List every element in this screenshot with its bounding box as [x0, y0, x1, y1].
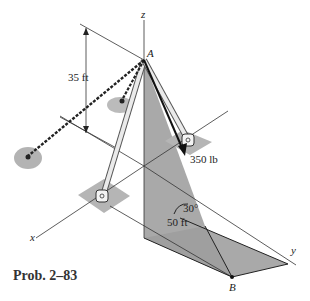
force-label: 350 lb: [190, 153, 218, 165]
height-ext-top: [80, 24, 144, 60]
angle-label: 30°: [183, 202, 198, 214]
back-anchor-ring: [120, 99, 125, 104]
diagram-canvas: z A 35 ft 350 lb 30° 50 ft y x B Prob. 2…: [0, 0, 310, 301]
shaded-planes: [144, 60, 288, 277]
point-b-label: B: [229, 281, 236, 293]
length-label: 50 ft: [167, 216, 187, 228]
x-axis: [36, 166, 144, 238]
height-label: 35 ft: [68, 71, 88, 83]
figure-caption: Prob. 2–83: [13, 268, 77, 283]
dim-arrow-top: [83, 28, 89, 35]
dim-arrow-bottom: [83, 126, 89, 133]
z-axis-label: z: [140, 8, 146, 20]
front-clevis: [96, 190, 108, 202]
point-a-label: A: [146, 47, 154, 59]
point-b-dot: [230, 275, 234, 279]
x-axis-hidden: [36, 237, 144, 238]
left-anchor-ring: [26, 155, 31, 160]
y-axis-label: y: [290, 244, 296, 256]
x-axis-label: x: [29, 231, 35, 243]
